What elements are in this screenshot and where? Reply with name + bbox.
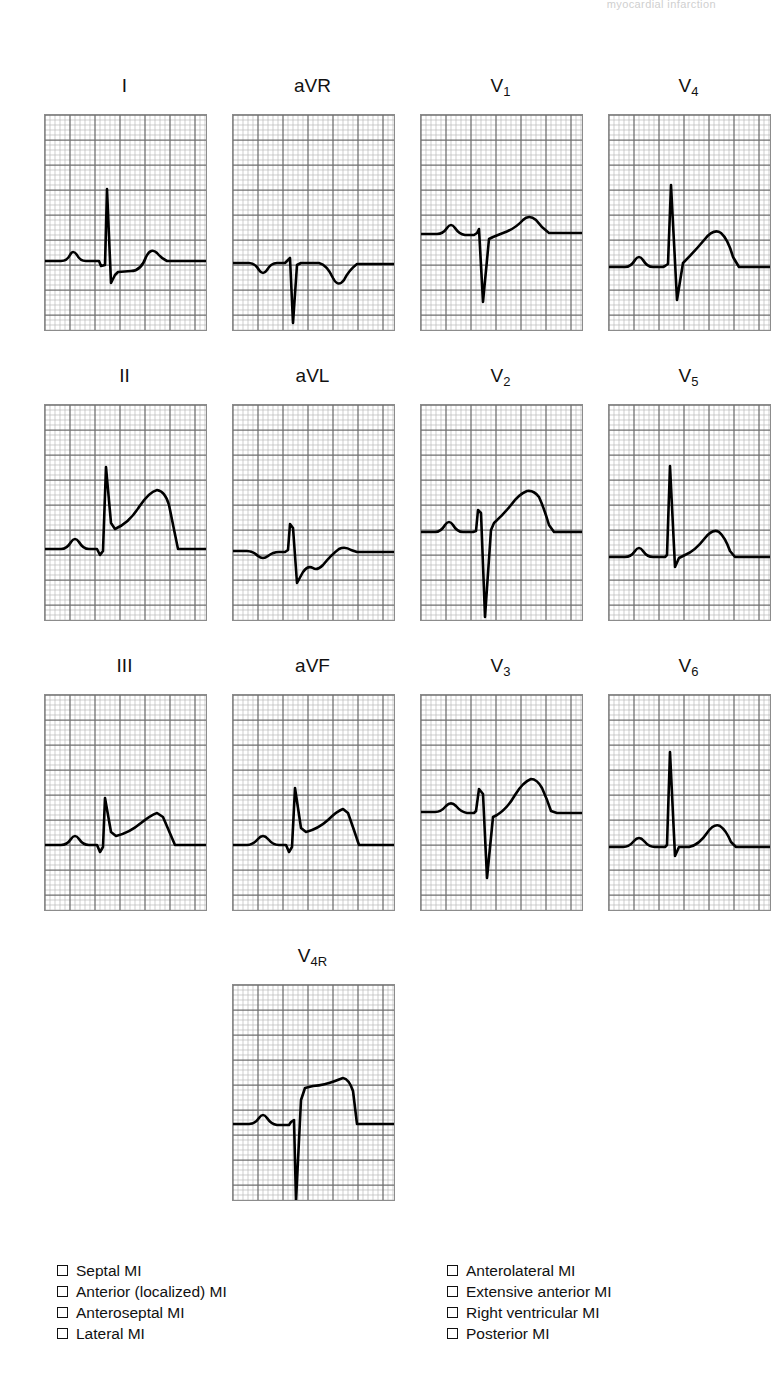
lead-label-text: V [491,655,504,676]
lead-label-text: II [119,365,130,386]
ecg-waveform-v5 [609,405,770,620]
lead-label-text: V [491,365,504,386]
checklist-item-label: Anterolateral MI [466,1262,575,1280]
lead-label-subscript: 4 [691,84,698,99]
ecg-waveform-avr [233,115,394,330]
lead-label-text: V [679,365,692,386]
ecg-lead-iii: III [44,656,205,909]
ecg-panel-avf [232,694,395,911]
lead-label-text: aVF [295,655,330,676]
ecg-panel-v4r [232,984,395,1201]
ecg-waveform-v2 [421,405,582,620]
lead-label-v2: V2 [420,366,581,385]
checklist-item[interactable]: Right ventricular MI [447,1302,612,1323]
checkbox-icon[interactable] [57,1265,68,1276]
ecg-panel-avr [232,114,395,331]
lead-label-text: III [117,655,133,676]
checklist-item[interactable]: Anteroseptal MI [57,1302,227,1323]
ecg-panel-v3 [420,694,583,911]
ecg-panel-v2 [420,404,583,621]
checklist-item[interactable]: Septal MI [57,1260,227,1281]
lead-label-v4r: V4R [232,946,393,965]
ecg-lead-v4: V4 [608,76,769,329]
lead-label-iii: III [44,656,205,675]
checklist-item[interactable]: Anterolateral MI [447,1260,612,1281]
ecg-lead-avf: aVF [232,656,393,909]
checklist-item-label: Anterior (localized) MI [76,1283,227,1301]
lead-label-v4: V4 [608,76,769,95]
lead-label-i: I [44,76,205,95]
ecg-waveform-v4r [233,985,394,1200]
ecg-waveform-v4 [609,115,770,330]
lead-label-v3: V3 [420,656,581,675]
lead-label-text: V [298,945,311,966]
checklist-item-label: Extensive anterior MI [466,1283,612,1301]
lead-label-text: V [679,75,692,96]
checklist-item[interactable]: Posterior MI [447,1323,612,1344]
lead-label-v5: V5 [608,366,769,385]
ecg-waveform-ii [45,405,206,620]
ecg-lead-i: I [44,76,205,329]
checkbox-icon[interactable] [57,1307,68,1318]
lead-label-subscript: 1 [503,84,510,99]
lead-label-v6: V6 [608,656,769,675]
lead-label-avr: aVR [232,76,393,95]
checklist-item-label: Anteroseptal MI [76,1304,185,1322]
checklist-item[interactable]: Extensive anterior MI [447,1281,612,1302]
ecg-waveform-avf [233,695,394,910]
checklist-item-label: Posterior MI [466,1325,550,1343]
lead-label-v1: V1 [420,76,581,95]
ecg-worksheet-page: myocardial infarction IaVRV1V4IIaVLV2V5I… [0,0,776,1390]
lead-label-text: I [122,75,127,96]
ecg-waveform-v1 [421,115,582,330]
ecg-lead-avr: aVR [232,76,393,329]
ecg-waveform-v3 [421,695,582,910]
ecg-panel-i [44,114,207,331]
ecg-panel-iii [44,694,207,911]
lead-label-subscript: 2 [503,374,510,389]
lead-label-subscript: 3 [503,664,510,679]
checkbox-icon[interactable] [57,1328,68,1339]
ecg-waveform-v6 [609,695,770,910]
ecg-panel-v4 [608,114,771,331]
lead-label-subscript: 4R [311,954,328,969]
checklist-item[interactable]: Lateral MI [57,1323,227,1344]
ecg-lead-ii: II [44,366,205,619]
ecg-lead-v2: V2 [420,366,581,619]
checkbox-icon[interactable] [447,1265,458,1276]
ecg-waveform-i [45,115,206,330]
lead-label-avl: aVL [232,366,393,385]
lead-label-ii: II [44,366,205,385]
ecg-lead-avl: aVL [232,366,393,619]
ecg-lead-v5: V5 [608,366,769,619]
checkbox-icon[interactable] [57,1286,68,1297]
checkbox-icon[interactable] [447,1328,458,1339]
lead-label-text: aVR [294,75,331,96]
ecg-lead-v6: V6 [608,656,769,909]
lead-label-text: V [679,655,692,676]
checklist-item[interactable]: Anterior (localized) MI [57,1281,227,1302]
ecg-lead-v3: V3 [420,656,581,909]
checklist-right-column: Anterolateral MIExtensive anterior MIRig… [447,1260,612,1344]
checkbox-icon[interactable] [447,1286,458,1297]
ecg-waveform-iii [45,695,206,910]
lead-label-text: V [491,75,504,96]
ecg-panel-avl [232,404,395,621]
ecg-panel-v6 [608,694,771,911]
checklist-item-label: Septal MI [76,1262,141,1280]
ecg-lead-v4r: V4R [232,946,393,1199]
lead-label-avf: aVF [232,656,393,675]
lead-label-subscript: 6 [691,664,698,679]
ecg-waveform-avl [233,405,394,620]
ecg-panel-v5 [608,404,771,621]
checkbox-icon[interactable] [447,1307,458,1318]
ecg-panel-v1 [420,114,583,331]
ecg-lead-v1: V1 [420,76,581,329]
lead-label-subscript: 5 [691,374,698,389]
checklist-left-column: Septal MIAnterior (localized) MIAnterose… [57,1260,227,1344]
running-head: myocardial infarction [607,0,716,10]
checklist-item-label: Right ventricular MI [466,1304,600,1322]
ecg-panel-ii [44,404,207,621]
checklist-item-label: Lateral MI [76,1325,145,1343]
lead-label-text: aVL [296,365,330,386]
